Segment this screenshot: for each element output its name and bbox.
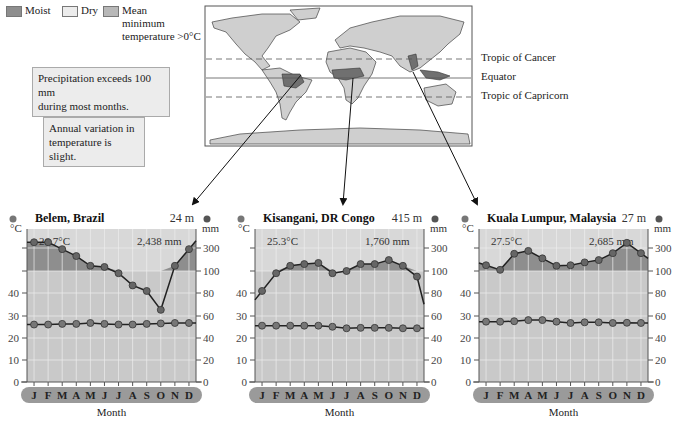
svg-text:10: 10	[8, 354, 20, 366]
month-label: J	[344, 389, 350, 401]
month-label: O	[157, 389, 166, 401]
elevation-label: 24 m	[170, 211, 195, 225]
svg-text:0: 0	[655, 376, 661, 388]
month-label: F	[45, 389, 52, 401]
svg-text:30: 30	[460, 310, 472, 322]
left-unit-label: °C	[462, 222, 474, 234]
svg-text:0: 0	[203, 376, 209, 388]
month-label: M	[509, 389, 520, 401]
svg-text:40: 40	[655, 332, 667, 344]
month-label: M	[285, 389, 296, 401]
svg-text:0: 0	[466, 376, 472, 388]
mean-temp-label: 25.3°C	[267, 235, 298, 247]
month-label: N	[399, 389, 407, 401]
month-label: J	[116, 389, 122, 401]
x-axis-label: Month	[97, 406, 127, 418]
svg-text:300: 300	[203, 242, 220, 254]
chart-title: Kuala Lumpur, Malaysia	[487, 211, 616, 225]
month-label: M	[313, 389, 324, 401]
svg-text:40: 40	[460, 287, 472, 299]
precipitation-marker-icon	[432, 216, 439, 223]
month-label: J	[554, 389, 560, 401]
climograph: 403020100300100806040200°CmmKuala Lumpur…	[460, 211, 672, 418]
temperature-marker-icon	[238, 216, 245, 223]
month-label: J	[31, 389, 37, 401]
month-label: J	[102, 389, 108, 401]
month-label: N	[171, 389, 179, 401]
month-label: N	[623, 389, 631, 401]
x-axis-label: Month	[549, 406, 579, 418]
chart-title: Kisangani, DR Congo	[263, 211, 375, 225]
month-label: A	[129, 389, 137, 401]
svg-text:100: 100	[203, 265, 220, 277]
month-label: S	[144, 389, 150, 401]
month-label: D	[185, 389, 193, 401]
precipitation-marker-icon	[204, 216, 211, 223]
svg-text:20: 20	[655, 354, 667, 366]
svg-text:30: 30	[236, 310, 248, 322]
month-label: D	[637, 389, 645, 401]
svg-text:20: 20	[460, 332, 472, 344]
svg-text:20: 20	[431, 354, 443, 366]
svg-text:300: 300	[655, 242, 672, 254]
month-label: A	[524, 389, 532, 401]
annual-precip-label: 2,438 mm	[137, 235, 182, 247]
svg-text:60: 60	[655, 310, 667, 322]
svg-text:40: 40	[431, 332, 443, 344]
right-unit-label: mm	[430, 222, 448, 234]
month-label: S	[372, 389, 378, 401]
temperature-marker-icon	[10, 216, 17, 223]
month-label: F	[273, 389, 280, 401]
left-unit-label: °C	[10, 222, 22, 234]
x-axis-label: Month	[325, 406, 355, 418]
month-label: S	[596, 389, 602, 401]
svg-text:80: 80	[655, 287, 667, 299]
month-label: J	[568, 389, 574, 401]
month-label: A	[581, 389, 589, 401]
month-label: M	[57, 389, 68, 401]
svg-text:0: 0	[431, 376, 437, 388]
left-unit-label: °C	[238, 222, 250, 234]
svg-text:60: 60	[203, 310, 215, 322]
month-label: M	[537, 389, 548, 401]
svg-text:40: 40	[203, 332, 215, 344]
svg-text:40: 40	[8, 287, 20, 299]
svg-text:100: 100	[431, 265, 448, 277]
mean-temp-label: 27.5°C	[491, 235, 522, 247]
climograph: 403020100300100806040200°CmmKisangani, D…	[236, 211, 448, 418]
svg-text:20: 20	[203, 354, 215, 366]
month-label: O	[609, 389, 618, 401]
elevation-label: 27 m	[622, 211, 647, 225]
svg-text:30: 30	[8, 310, 20, 322]
svg-text:20: 20	[8, 332, 20, 344]
svg-text:40: 40	[236, 287, 248, 299]
month-label: J	[483, 389, 489, 401]
svg-text:100: 100	[655, 265, 672, 277]
month-label: A	[357, 389, 365, 401]
svg-text:60: 60	[431, 310, 443, 322]
climograph: 403020100300100806040200°CmmBelem, Brazi…	[8, 211, 220, 418]
elevation-label: 415 m	[392, 211, 423, 225]
month-label: O	[385, 389, 394, 401]
svg-text:10: 10	[460, 354, 472, 366]
chart-title: Belem, Brazil	[35, 211, 105, 225]
month-label: J	[259, 389, 265, 401]
month-label: J	[330, 389, 336, 401]
svg-text:20: 20	[236, 332, 248, 344]
month-label: F	[497, 389, 504, 401]
svg-text:80: 80	[431, 287, 443, 299]
right-unit-label: mm	[654, 222, 672, 234]
precipitation-marker-icon	[656, 216, 663, 223]
svg-text:300: 300	[431, 242, 448, 254]
month-label: A	[300, 389, 308, 401]
right-unit-label: mm	[202, 222, 220, 234]
svg-text:80: 80	[203, 287, 215, 299]
svg-text:0: 0	[14, 376, 20, 388]
month-label: M	[85, 389, 96, 401]
svg-text:0: 0	[242, 376, 248, 388]
month-label: A	[72, 389, 80, 401]
svg-text:10: 10	[236, 354, 248, 366]
month-label: D	[413, 389, 421, 401]
annual-precip-label: 1,760 mm	[365, 235, 410, 247]
climograph-layer: 403020100300100806040200°CmmBelem, Brazi…	[0, 0, 677, 423]
